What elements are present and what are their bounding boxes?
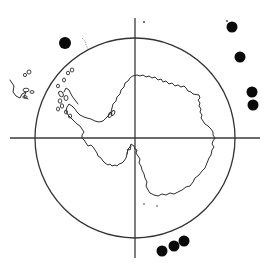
antarctica-polar-map <box>0 0 266 268</box>
antarctica-coastline <box>66 75 215 196</box>
site-marker <box>59 37 71 49</box>
site-marker <box>179 236 190 247</box>
site-marker <box>248 100 259 111</box>
site-marker <box>227 22 238 33</box>
site-marker <box>235 52 246 63</box>
site-marker <box>169 241 180 252</box>
speck <box>156 205 158 207</box>
outer-islands <box>10 70 34 99</box>
ross-sea-inlet <box>127 146 131 154</box>
speck <box>143 203 145 205</box>
peninsula-islands <box>57 68 116 118</box>
speck <box>143 21 145 23</box>
site-marker <box>247 87 258 98</box>
site-marker <box>157 246 168 257</box>
dotted-route <box>82 38 88 49</box>
speck <box>226 20 228 22</box>
site-markers <box>59 22 259 257</box>
